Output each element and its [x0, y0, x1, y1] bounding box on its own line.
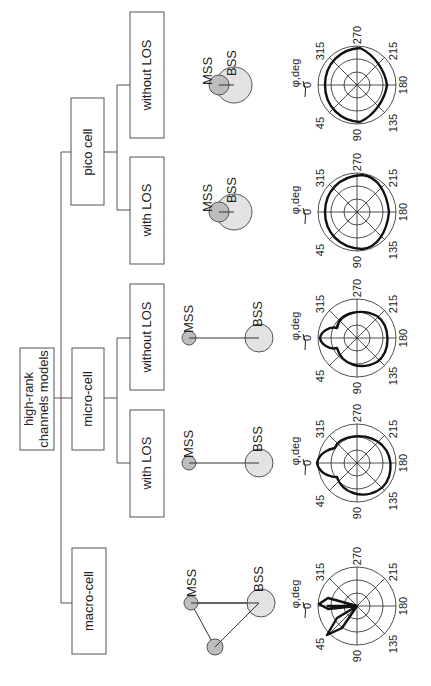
svg-text:pico cell: pico cell — [80, 128, 95, 175]
stations-micro-without: MSS BSS — [181, 301, 273, 352]
svg-text:90: 90 — [351, 507, 363, 519]
svg-text:micro-cell: micro-cell — [80, 371, 95, 427]
svg-text:270: 270 — [351, 279, 363, 297]
svg-text:215: 215 — [387, 420, 399, 438]
svg-text:φ,deg: φ,deg — [289, 312, 301, 341]
stations-pico-with: MSS BSS — [200, 177, 252, 230]
svg-text:with LOS: with LOS — [139, 436, 154, 490]
node-micro-without-los: without LOS — [130, 284, 164, 390]
svg-text:135: 135 — [387, 241, 399, 259]
svg-text:315: 315 — [314, 42, 326, 60]
svg-text:φ,deg: φ,deg — [289, 580, 301, 609]
node-micro-with-los: with LOS — [130, 410, 164, 517]
svg-text:90: 90 — [351, 650, 363, 662]
diagram-canvas: high-rank channels models macro-cell mic… — [0, 0, 431, 686]
svg-text:90: 90 — [351, 129, 363, 141]
mss-label: MSS — [184, 569, 199, 598]
svg-text:135: 135 — [387, 492, 399, 510]
svg-text:180: 180 — [397, 329, 409, 347]
svg-text:φ,deg: φ,deg — [289, 59, 301, 88]
svg-text:270: 270 — [351, 404, 363, 422]
svg-text:270: 270 — [351, 153, 363, 171]
bss-label: BSS — [251, 566, 266, 592]
svg-text:45: 45 — [314, 370, 326, 382]
node-macro-cell: macro-cell — [72, 548, 106, 654]
polar-micro-without-los — [318, 299, 396, 377]
node-root: high-rank channels models — [20, 348, 54, 450]
polar-macro — [318, 567, 396, 645]
svg-text:215: 215 — [387, 42, 399, 60]
svg-text:with LOS: with LOS — [139, 183, 154, 237]
bss-label: BSS — [224, 177, 239, 203]
stations-pico-without: MSS BSS — [200, 50, 252, 103]
svg-text:180: 180 — [397, 454, 409, 472]
svg-text:270: 270 — [351, 547, 363, 565]
svg-text:45: 45 — [314, 638, 326, 650]
svg-text:φ,deg: φ,deg — [289, 186, 301, 215]
stations-micro-with: MSS BSS — [181, 426, 273, 477]
svg-text:215: 215 — [387, 563, 399, 581]
svg-text:0: 0 — [301, 460, 313, 466]
svg-text:0: 0 — [301, 603, 313, 609]
svg-text:high-rank: high-rank — [21, 371, 36, 426]
bss-label: BSS — [250, 301, 265, 327]
svg-text:90: 90 — [351, 382, 363, 394]
svg-text:without LOS: without LOS — [139, 39, 154, 111]
bss-label: BSS — [224, 50, 239, 76]
svg-text:135: 135 — [387, 635, 399, 653]
node-pico-cell: pico cell — [71, 98, 104, 205]
polar-pico-without-los — [318, 46, 396, 124]
mss-label: MSS — [200, 184, 215, 213]
node-micro-cell: micro-cell — [72, 348, 104, 450]
svg-text:90: 90 — [351, 256, 363, 268]
svg-text:180: 180 — [397, 203, 409, 221]
mss-label: MSS — [200, 57, 215, 86]
polar-ticks: 0 45 90 135 180 215 270 315 φ,deg 0 45 9… — [289, 26, 409, 662]
polar-micro-with-los — [317, 424, 396, 502]
polar-pico-with-los — [318, 173, 396, 251]
svg-text:45: 45 — [314, 244, 326, 256]
bss-label: BSS — [250, 426, 265, 452]
mss-label: MSS — [181, 305, 196, 334]
svg-text:315: 315 — [314, 420, 326, 438]
figure: high-rank channels models macro-cell mic… — [0, 0, 431, 686]
svg-text:0: 0 — [301, 82, 313, 88]
svg-text:0: 0 — [301, 209, 313, 215]
svg-text:215: 215 — [387, 295, 399, 313]
svg-text:180: 180 — [397, 76, 409, 94]
svg-text:315: 315 — [314, 169, 326, 187]
svg-text:315: 315 — [314, 295, 326, 313]
node-pico-with-los: with LOS — [130, 157, 164, 264]
stations-macro: MSS BSS — [184, 566, 275, 655]
svg-text:270: 270 — [351, 26, 363, 44]
node-pico-without-los: without LOS — [130, 12, 164, 138]
svg-text:0: 0 — [301, 335, 313, 341]
svg-text:45: 45 — [314, 495, 326, 507]
svg-text:φ,deg: φ,deg — [289, 437, 301, 466]
svg-text:45: 45 — [314, 117, 326, 129]
svg-text:without LOS: without LOS — [139, 301, 154, 373]
svg-text:315: 315 — [314, 563, 326, 581]
svg-text:215: 215 — [387, 169, 399, 187]
svg-text:135: 135 — [387, 367, 399, 385]
svg-text:channels models: channels models — [36, 350, 51, 448]
svg-text:135: 135 — [387, 114, 399, 132]
mss-label: MSS — [181, 430, 196, 459]
svg-text:180: 180 — [397, 597, 409, 615]
svg-text:macro-cell: macro-cell — [81, 571, 96, 631]
